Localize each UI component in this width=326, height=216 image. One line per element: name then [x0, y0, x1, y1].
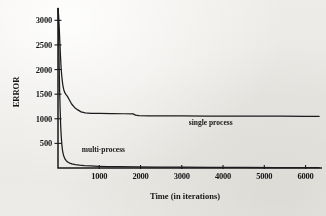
x-tick-label: 2000	[132, 171, 148, 181]
y-tick-label: 500	[40, 138, 52, 148]
y-tick-label: 3000	[36, 15, 52, 25]
y-axis-title: ERROR	[11, 76, 21, 108]
x-tick-label: 4000	[215, 171, 231, 181]
y-tick-label: 2500	[36, 40, 52, 50]
x-tick-label: 6000	[297, 171, 313, 181]
series-line-single-process	[58, 8, 319, 116]
data-series-group	[58, 8, 319, 167]
x-tick-label: 3000	[174, 171, 190, 181]
y-tick-label: 1500	[36, 89, 52, 99]
error-vs-time-line-chart: 50010001500200025003000 1000200030004000…	[0, 0, 326, 216]
series-line-multi-process	[58, 8, 319, 167]
annotation-single-process: single process	[189, 118, 233, 127]
x-axis-title: Time (in iterations)	[150, 191, 220, 201]
annotation-multi-process: multi-process	[82, 145, 125, 154]
series-annotations: single processmulti-process	[82, 118, 233, 154]
y-tick-label: 2000	[36, 65, 52, 75]
x-tick-label: 1000	[91, 171, 107, 181]
y-tick-label: 1000	[36, 114, 52, 124]
x-tick-label: 5000	[256, 171, 272, 181]
